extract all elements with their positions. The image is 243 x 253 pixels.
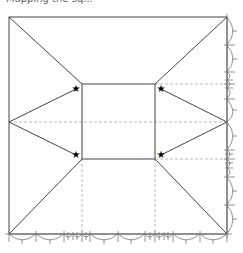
crease-lines (9, 17, 227, 234)
inner-square (82, 84, 155, 159)
origami-crease-diagram: ★ ★ ★ ★ (0, 0, 243, 253)
outer-square (9, 17, 227, 234)
star-icon: ★ (72, 149, 81, 160)
star-markers: ★ ★ ★ ★ (72, 83, 166, 160)
star-icon: ★ (157, 149, 166, 160)
right-ruler (224, 14, 237, 238)
star-icon: ★ (157, 83, 166, 94)
bottom-ruler (5, 231, 232, 244)
star-icon: ★ (72, 83, 81, 94)
